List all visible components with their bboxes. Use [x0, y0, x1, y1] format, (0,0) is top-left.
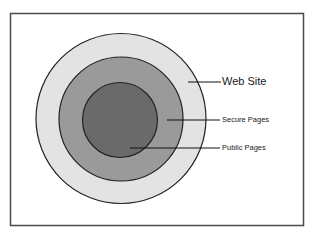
public-pages-circle — [83, 83, 158, 158]
public-pages-label: Public Pages — [222, 143, 266, 152]
web-site-label: Web Site — [222, 75, 266, 87]
secure-pages-label: Secure Pages — [222, 115, 269, 124]
